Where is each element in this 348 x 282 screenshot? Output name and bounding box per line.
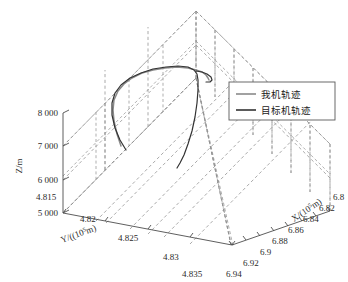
x-tick-label: 6.94 bbox=[226, 269, 242, 279]
y-tick-label: 4.825 bbox=[118, 233, 139, 243]
y-axis-label-tail: m) bbox=[85, 223, 98, 236]
y-axis-label: Y/((105m) bbox=[59, 223, 97, 245]
legend[interactable]: 我机轨迹 目标机轨迹 bbox=[229, 82, 335, 120]
x-tick-label: 6.92 bbox=[243, 258, 259, 268]
legend-label-own-aircraft: 我机轨迹 bbox=[261, 89, 301, 100]
grid-left-wall-final bbox=[63, 0, 196, 180]
y-tick-label: 4.83 bbox=[163, 252, 179, 262]
y-tick-label: 4.835 bbox=[182, 269, 203, 279]
x-tick-label: 6.8 bbox=[333, 192, 345, 202]
svg-text:Y/((105m): Y/((105m) bbox=[59, 223, 97, 245]
legend-label-target-aircraft: 目标机轨迹 bbox=[261, 105, 311, 116]
z-tick-label: 7 000 bbox=[38, 141, 59, 151]
x-tick-label: 6.88 bbox=[272, 236, 288, 246]
grid-left-wall bbox=[63, 0, 196, 206]
x-tick-label: 6.9 bbox=[260, 247, 272, 257]
trajectories bbox=[112, 66, 212, 168]
z-tick-label: 8 000 bbox=[38, 108, 59, 118]
x-tick-label: 6.86 bbox=[288, 225, 304, 235]
z-axis-label: Z/m bbox=[14, 159, 24, 174]
figure-3d-trajectory-plot: 5 000 6 000 7 000 8 000 Z/m 4.815 4.82 4… bbox=[0, 0, 348, 282]
y-tick-label: 4.815 bbox=[36, 192, 57, 202]
z-tick-label: 6 000 bbox=[38, 175, 59, 185]
x-tick-labels: 6.8 6.82 6.84 6.86 6.88 6.9 6.92 6.94 bbox=[226, 192, 345, 279]
plot-svg: 5 000 6 000 7 000 8 000 Z/m 4.815 4.82 4… bbox=[0, 0, 348, 282]
z-tick-label: 5 000 bbox=[38, 208, 59, 218]
grid-lines bbox=[63, 0, 330, 261]
series-line-own-aircraft bbox=[113, 67, 209, 146]
